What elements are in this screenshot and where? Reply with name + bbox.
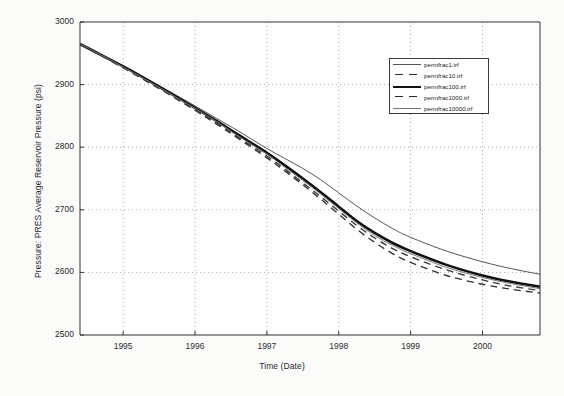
legend-label: permfrac100.irf <box>424 83 466 90</box>
x-tick-label: 1999 <box>391 341 431 351</box>
legend-label: permfrac10000.irf <box>424 105 473 112</box>
chart-figure: 2500260027002800290030001995199619971998… <box>0 0 564 396</box>
legend-line-swatch <box>392 104 422 114</box>
legend-line-swatch <box>392 82 422 92</box>
legend-label: permfrac1.irf <box>424 61 459 68</box>
legend-item[interactable]: permfrac10000.irf <box>390 103 488 114</box>
x-tick-label: 1998 <box>319 341 359 351</box>
x-tick-label: 2000 <box>463 341 503 351</box>
legend-item[interactable]: permfrac1000.irf <box>390 92 488 103</box>
x-axis-label: Time (Date) <box>0 361 564 371</box>
y-tick-label: 2500 <box>34 329 74 339</box>
legend-line-swatch <box>392 93 422 103</box>
y-axis-label: Pressure: PRES Average Reservoir Pressur… <box>33 61 43 301</box>
legend-label: permfrac10.irf <box>424 72 462 79</box>
legend-label: permfrac1000.irf <box>424 94 469 101</box>
y-tick-label: 3000 <box>34 16 74 26</box>
legend-line-swatch <box>392 71 422 81</box>
legend-item[interactable]: permfrac1.irf <box>390 59 488 70</box>
legend-item[interactable]: permfrac100.irf <box>390 81 488 92</box>
legend-line-swatch <box>392 60 422 70</box>
legend-item[interactable]: permfrac10.irf <box>390 70 488 81</box>
x-tick-label: 1995 <box>103 341 143 351</box>
legend[interactable]: permfrac1.irfpermfrac10.irfpermfrac100.i… <box>389 58 489 114</box>
x-tick-label: 1996 <box>175 341 215 351</box>
x-tick-label: 1997 <box>247 341 287 351</box>
